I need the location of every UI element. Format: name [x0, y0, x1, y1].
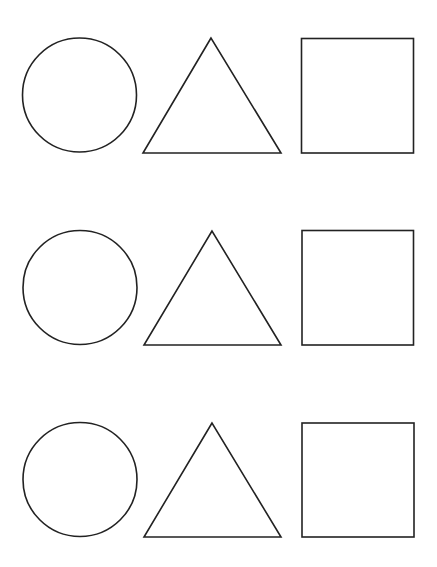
shapes-worksheet: [0, 0, 437, 567]
background: [0, 0, 437, 567]
